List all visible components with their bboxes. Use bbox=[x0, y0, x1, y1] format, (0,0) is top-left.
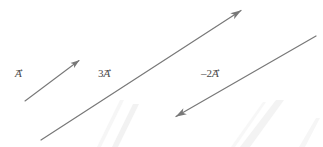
vector-arrow-glyph: → bbox=[211, 63, 220, 68]
diagram-canvas bbox=[0, 0, 323, 147]
vector-a-label: →A bbox=[15, 68, 22, 79]
vector-3a-symbol: →A bbox=[104, 68, 111, 79]
vector-3a-label: 3→A bbox=[98, 68, 110, 79]
watermark bbox=[97, 100, 320, 147]
vector-a-arrow bbox=[25, 61, 79, 102]
vector-a-symbol: →A bbox=[15, 68, 22, 79]
vector-minus2a-symbol: →A bbox=[212, 68, 219, 79]
vector-minus2a-label: –2→A bbox=[201, 68, 219, 79]
vector-minus2a-arrow bbox=[176, 36, 316, 117]
vector-arrow-glyph: → bbox=[103, 63, 112, 68]
vector-diagram: →A 3→A –2→A bbox=[0, 0, 323, 147]
vector-arrow-glyph: → bbox=[14, 63, 23, 68]
